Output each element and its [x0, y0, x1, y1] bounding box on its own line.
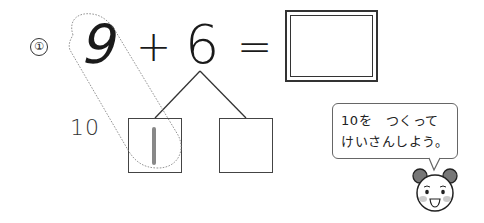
- answer-box[interactable]: [285, 10, 378, 82]
- decomposition-right-box[interactable]: [219, 118, 273, 173]
- bear-mouth: [430, 199, 440, 207]
- bear-ear-left-icon: [413, 169, 427, 183]
- decomposition-left-box[interactable]: [128, 118, 182, 173]
- bear-cheek-left: [419, 196, 427, 202]
- answer-box-inner: [290, 15, 373, 77]
- question-number: ①: [30, 38, 48, 56]
- operand-1: 9: [82, 18, 120, 72]
- operand-2: 6: [185, 18, 219, 72]
- branch-line-left: [155, 71, 200, 118]
- bear-ear-right-icon: [443, 169, 457, 183]
- hint-speech-bubble: 10を つくって けいさんしよう。: [332, 103, 458, 159]
- bear-eye-right: [441, 190, 445, 195]
- equals-sign: =: [237, 26, 272, 68]
- left-box-value-one: [152, 127, 156, 165]
- bear-eye-left: [425, 190, 429, 195]
- hint-line-2: けいさんしよう。: [341, 131, 449, 152]
- branch-line-right: [200, 71, 246, 118]
- bubble-tail: [429, 158, 440, 170]
- bear-cheek-right: [443, 196, 451, 202]
- plus-sign: +: [136, 26, 171, 68]
- bear-face-icon: [417, 175, 453, 211]
- ten-label: 10: [70, 115, 100, 140]
- hint-line-1: 10を つくって: [341, 110, 449, 131]
